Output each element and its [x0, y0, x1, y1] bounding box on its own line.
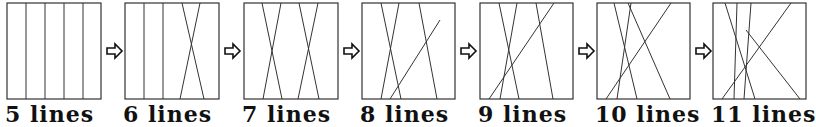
- panel-label: 8 lines: [360, 101, 449, 127]
- arrow-right-icon: [696, 44, 711, 58]
- panel-frame: [480, 3, 573, 99]
- arrow-right-icon: [461, 44, 476, 58]
- panel-line: [628, 3, 670, 99]
- panel-5: [480, 3, 573, 99]
- panel-line: [734, 3, 737, 99]
- arrow-right-icon: [225, 44, 240, 58]
- panel-line: [725, 3, 755, 99]
- panel-label: 5 lines: [5, 101, 94, 127]
- panel-label: 11 lines: [711, 101, 816, 127]
- panel-label: 7 lines: [242, 101, 331, 127]
- arrow-right-icon: [107, 44, 122, 58]
- panel-frame: [713, 3, 806, 99]
- panel-line: [744, 3, 751, 99]
- panel-line: [606, 3, 671, 99]
- panel-frame: [597, 3, 690, 99]
- panel-line: [299, 3, 319, 99]
- panel-line: [617, 3, 631, 99]
- panel-line: [614, 3, 637, 99]
- panel-7: [713, 3, 806, 99]
- panel-line: [180, 3, 200, 99]
- panel-label: 10 lines: [595, 101, 700, 127]
- panel-line: [390, 20, 440, 99]
- panel-2: [125, 3, 219, 99]
- panel-line: [722, 3, 791, 99]
- panel-4: [362, 3, 455, 99]
- panel-line: [182, 3, 204, 99]
- panel-frame: [362, 3, 455, 99]
- panel-frame: [7, 3, 101, 99]
- panel-line: [746, 30, 800, 99]
- panel-3: [244, 3, 338, 99]
- panel-line: [500, 3, 517, 99]
- panel-line: [263, 3, 281, 99]
- panel-label: 9 lines: [478, 101, 567, 127]
- panel-1: [7, 3, 101, 99]
- panel-label: 6 lines: [123, 101, 212, 127]
- panel-frame: [244, 3, 338, 99]
- arrow-right-icon: [344, 44, 359, 58]
- panel-line: [419, 3, 437, 99]
- panel-frame: [125, 3, 219, 99]
- panel-line: [298, 3, 318, 99]
- panel-6: [597, 3, 690, 99]
- arrow-right-icon: [579, 44, 594, 58]
